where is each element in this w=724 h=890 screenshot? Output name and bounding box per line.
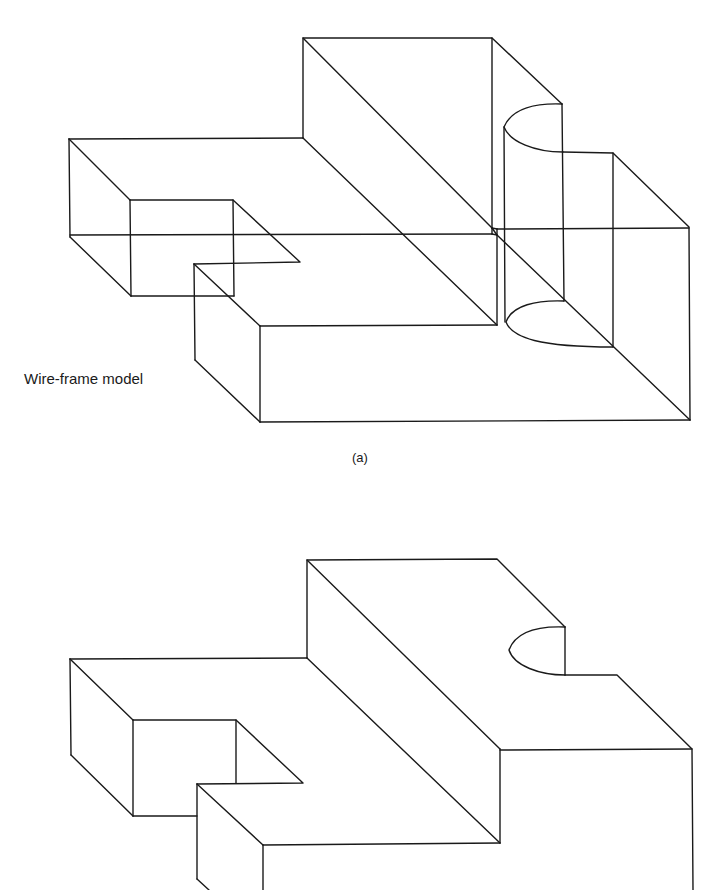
wireframe-model-label: Wire-frame model xyxy=(24,370,143,387)
panel-a-caption: (a) xyxy=(352,450,368,465)
solid-model xyxy=(70,559,693,890)
engineering-drawing xyxy=(0,0,724,890)
wireframe-model xyxy=(69,38,690,422)
